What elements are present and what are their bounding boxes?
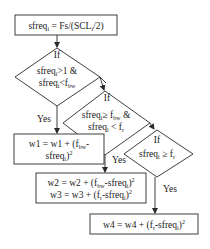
decision-2-if-label: If xyxy=(104,93,111,103)
decision-3-yes-label: Yes xyxy=(163,184,177,194)
box-w3-line: w3 = w3 + (fr-sfreqi)2 xyxy=(50,189,132,201)
start-box-text: sfreqi = Fs/(SCLi/2) xyxy=(28,21,103,32)
box-w2-line: w2 = w2 + (fbw-sfreqi)2 xyxy=(47,177,134,189)
start-box: sfreqi = Fs/(SCLi/2) xyxy=(15,15,117,35)
decision-3-if-label: If xyxy=(154,135,161,145)
box-w2-w3: w2 = w2 + (fbw-sfreqi)2 w3 = w3 + (fr-sf… xyxy=(36,173,146,203)
box-w1-line2: sfreqi)2 xyxy=(46,150,73,162)
decision-1-line1: sfreqi>1 & xyxy=(37,66,78,77)
box-w1: w1 = w1 + (fbw- sfreqi)2 xyxy=(14,134,104,164)
decision-3-line1: sfreqi ≥ fr xyxy=(139,149,175,160)
decision-1-yes-label: Yes xyxy=(37,114,51,124)
arrow-d2-no-to-d3 xyxy=(150,123,154,129)
box-w4-line: w4 = w4 + (fr-sfreqi)2 xyxy=(103,219,185,231)
decision-2-line1: sfreqi≥ fbw & xyxy=(82,110,131,121)
box-w4: w4 = w4 + (fr-sfreqi)2 xyxy=(90,214,198,234)
decision-2-line2: sfreqi < fr xyxy=(88,122,124,133)
flowchart: sfreqi = Fs/(SCLi/2) If sfreqi>1 & sfreq… xyxy=(0,0,210,249)
decision-1-if-label: If xyxy=(54,50,61,60)
decision-2-yes-label: Yes xyxy=(112,155,126,165)
